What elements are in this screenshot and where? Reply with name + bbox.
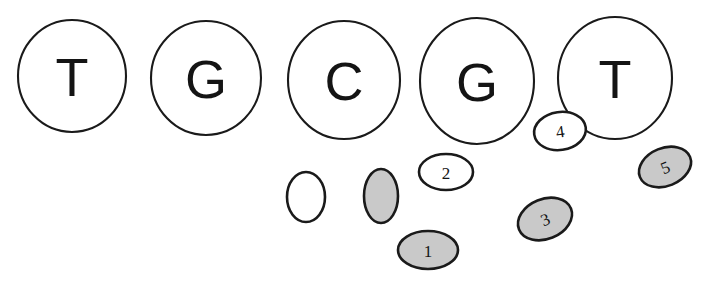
base-circle-label: T [56, 47, 89, 107]
base-circle-t-0: T [18, 20, 126, 132]
base-circle-label: T [599, 49, 632, 109]
base-circle-label: G [185, 49, 227, 109]
unlabeled-white-ellipse-shape [287, 172, 325, 222]
feature-ellipse-2: 2 [419, 154, 473, 190]
base-circle-label: C [325, 51, 364, 111]
base-circle-g-3: G [420, 18, 534, 144]
feature-ellipse-1: 1 [398, 231, 458, 269]
diagram-canvas: TGCGT 12345 [0, 0, 703, 285]
feature-ellipse-2-label: 2 [442, 164, 451, 183]
feature-ellipse-3: 3 [512, 190, 579, 248]
base-circle-label: G [456, 52, 498, 112]
unlabeled-gray-ellipse-shape [364, 169, 398, 223]
feature-ellipse-1-label: 1 [424, 242, 433, 261]
base-circle-g-1: G [151, 21, 261, 135]
base-circle-c-2: C [288, 21, 400, 139]
unlabeled-gray-ellipse [364, 169, 398, 223]
feature-ellipse-5: 5 [633, 139, 697, 194]
nucleotide-circles-diagram: TGCGT 12345 [0, 0, 703, 285]
unlabeled-white-ellipse [287, 172, 325, 222]
